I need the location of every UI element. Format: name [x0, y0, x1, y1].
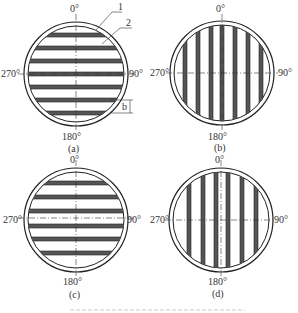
caption-d: (d) [212, 288, 224, 300]
panel-d: 0° 270° 90° 180° (d) [150, 154, 288, 300]
diagram-canvas: 0° 1 2 270° 90° 180° b (a) 0° 270° 90° 1… [0, 0, 298, 313]
callout-2: 2 [126, 17, 131, 28]
callout-1: 1 [118, 1, 123, 12]
label-180: 180° [208, 131, 227, 142]
label-0: 0° [70, 3, 79, 14]
label-180: 180° [63, 276, 82, 287]
label-270: 270° [1, 68, 20, 79]
caption-b: (b) [214, 142, 226, 154]
label-90: 90° [278, 67, 292, 78]
label-90: 90° [129, 68, 143, 79]
label-270: 270° [150, 214, 169, 225]
label-180: 180° [62, 131, 81, 142]
label-0: 0° [215, 154, 224, 165]
label-0: 0° [70, 154, 79, 165]
dimension-b: b [122, 101, 127, 112]
label-270: 270° [150, 67, 169, 78]
panel-c: 0° 270° 90° 180° (c) [3, 154, 141, 301]
panel-b: 0° 270° 90° 180° (b) [150, 3, 292, 154]
label-0: 0° [216, 3, 225, 14]
caption-c: (c) [69, 289, 80, 301]
panel-a: 0° 1 2 270° 90° 180° b (a) [1, 1, 143, 155]
label-180: 180° [208, 276, 227, 287]
label-90: 90° [127, 214, 141, 225]
label-270: 270° [3, 214, 22, 225]
label-90: 90° [274, 214, 288, 225]
